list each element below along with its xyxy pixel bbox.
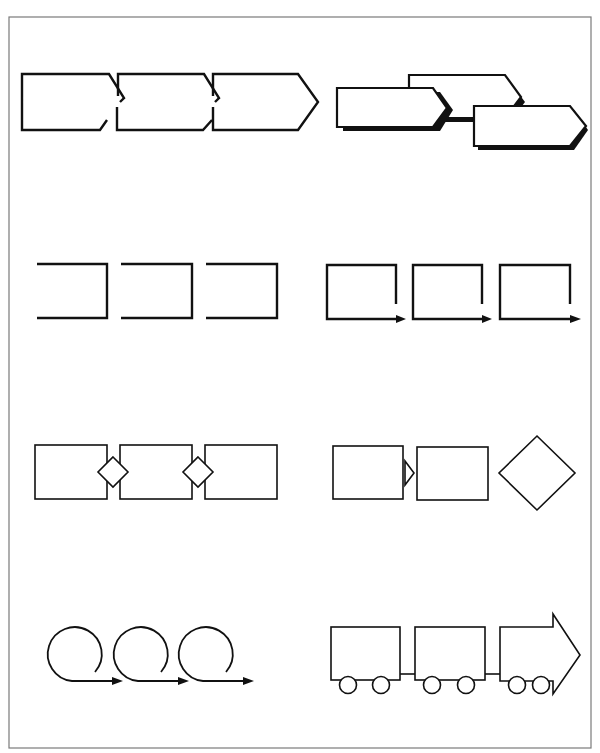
process-box-2 (120, 445, 192, 499)
shadow-arrow-left (337, 88, 453, 131)
process-box-a (333, 446, 403, 499)
wheel (533, 677, 550, 694)
diagram-canvas (0, 0, 600, 753)
process-box-3 (205, 445, 277, 499)
wheel (424, 677, 441, 694)
process-box-b (417, 447, 488, 500)
boxes-to-decision (333, 436, 575, 510)
shadow-arrow-right (474, 106, 588, 150)
wheel (509, 677, 526, 694)
wheel (340, 677, 357, 694)
process-box-1 (35, 445, 107, 499)
diamond-linked-boxes (35, 445, 277, 499)
wheel (458, 677, 475, 694)
wheel (373, 677, 390, 694)
